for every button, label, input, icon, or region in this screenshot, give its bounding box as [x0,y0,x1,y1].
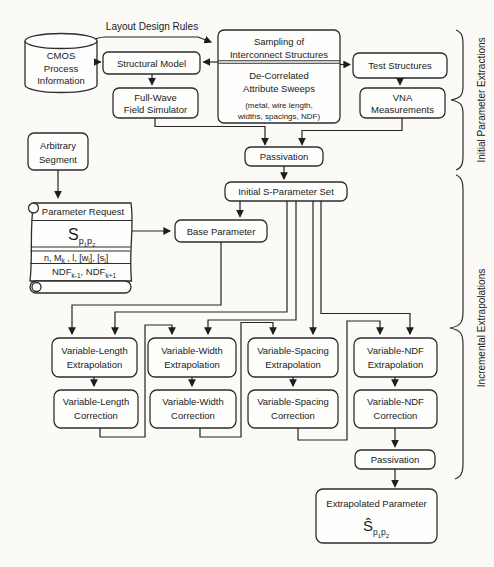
sampling-line3: De-Correlated [249,70,309,81]
incremental-extrapolations-label: Incremental Extrapolations [476,269,487,387]
variable-spacing-extrapolation-box [248,338,338,377]
scroll-bottom-curl [30,281,131,293]
arbitrary-line1: Arbitrary [40,140,76,151]
variable-length-corr-line1: Variable-Length [63,396,129,407]
sampling-line2: Interconnect Structures [230,49,328,60]
variable-length-extrap-line1: Variable-Length [61,345,127,356]
cmos-cylinder-top [25,34,97,49]
variable-width-extrap-line2: Extrapolation [164,359,219,370]
full-wave-line2: Field Simulator [124,104,187,115]
scroll-attrs: n, Mk , l, [wi], [si] [44,253,108,265]
layout-design-rules-label: Layout Design Rules [106,21,198,32]
arbitrary-line2: Segment [39,154,77,165]
variable-spacing-corr-line2: Correction [271,410,315,421]
scroll-header: Parameter Request [42,206,125,217]
sampling-line1: Sampling of [254,36,305,47]
flow-diagram-figure: Layout Design Rules CMOS Process Informa… [0,0,494,567]
vna-line2: Measurements [371,104,434,115]
brace-initial-extractions [451,30,463,170]
variable-width-extrap-line1: Variable-Width [161,345,223,356]
variable-width-extrapolation-box [148,338,236,377]
cmos-line2: Process [44,63,79,74]
passivation-top-label: Passivation [260,151,309,162]
variable-length-extrap-line2: Extrapolation [67,359,122,370]
cmos-line3: Information [37,75,85,86]
scroll-bottom-curl-circle [32,283,41,292]
base-parameter-label: Base Parameter [187,226,256,237]
test-structures-label: Test Structures [368,60,432,71]
sampling-line5: (metal, wire length, [245,101,313,110]
variable-length-extrapolation-box [52,338,137,377]
variable-ndf-corr-line1: Variable-NDF [367,396,424,407]
variable-ndf-extrapolation-box [354,338,437,377]
sampling-line4: Attribute Sweeps [243,83,315,94]
scroll-top-curl [29,203,39,213]
arrow-isps-to-ndf-extrap [321,201,410,334]
initial-s-parameter-set-label: Initial S-Parameter Set [238,186,334,197]
extrapolated-parameter-label: Extrapolated Parameter [326,498,426,509]
passivation-bottom-label: Passivation [371,454,420,465]
variable-width-corr-line2: Correction [171,410,215,421]
vna-line1: VNA [393,92,413,103]
variable-ndf-extrap-line2: Extrapolation [368,359,423,370]
cmos-line1: CMOS [47,50,76,61]
arrow-layout-rules-to-sampling [91,37,211,43]
diagram-svg: Layout Design Rules CMOS Process Informa… [0,0,494,567]
variable-spacing-extrap-line2: Extrapolation [265,359,320,370]
variable-spacing-corr-line1: Variable-Spacing [257,396,329,407]
full-wave-line1: Full-Wave [134,92,176,103]
variable-spacing-extrap-line1: Variable-Spacing [257,345,329,356]
initial-parameter-extractions-label: Initial Parameter Extractions [476,37,487,162]
brace-incremental-extrapolations [450,175,463,479]
structural-model-label: Structural Model [117,58,186,69]
variable-width-corr-line1: Variable-Width [162,396,224,407]
variable-ndf-extrap-line1: Variable-NDF [367,345,424,356]
variable-length-corr-line2: Correction [74,410,118,421]
sampling-line6: widths, spacings, NDF) [237,112,321,121]
variable-ndf-corr-line2: Correction [374,410,418,421]
